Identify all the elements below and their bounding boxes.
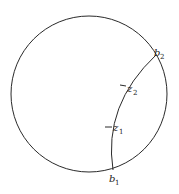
svg-text:2: 2 <box>160 53 164 61</box>
label-b2: b 2 <box>154 47 164 61</box>
label-z2: z 2 <box>126 83 137 97</box>
svg-text:1: 1 <box>119 128 123 136</box>
label-b1: b 1 <box>109 173 119 187</box>
diagram-canvas: b 2 z 2 z 1 b 1 <box>0 0 179 194</box>
svg-text:z: z <box>112 122 119 133</box>
label-z1: z 1 <box>112 122 123 136</box>
svg-text:2: 2 <box>133 89 137 97</box>
geodesic-arc <box>111 55 156 170</box>
z2-tick <box>120 85 126 86</box>
svg-text:1: 1 <box>115 179 119 187</box>
boundary-circle <box>11 16 167 172</box>
svg-text:z: z <box>126 83 133 94</box>
